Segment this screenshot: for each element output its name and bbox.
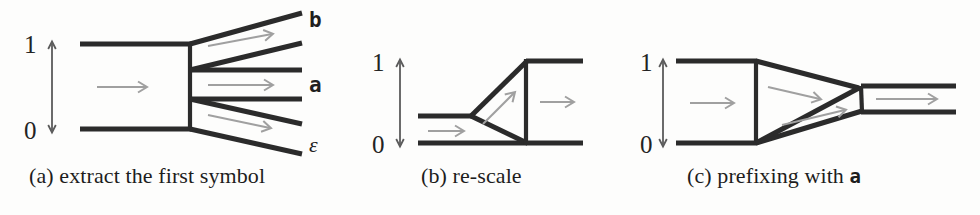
panel-a-flow-arrow-input (97, 82, 147, 93)
panel-c-label-zero: 0 (640, 131, 653, 158)
panel-b-flow-arrow-diagonal (483, 88, 519, 124)
panel-c-label-one: 1 (640, 49, 653, 76)
caption-panel-c-text: (c) prefixing with (687, 163, 850, 188)
caption-panel-c-symbol: a (850, 165, 862, 187)
panel-b-input-band (418, 116, 527, 143)
panel-c-flow-arrow-upper (768, 87, 822, 105)
caption-panel-a: (a) extract the first symbol (29, 163, 265, 189)
caption-panel-b: (b) re-scale (421, 163, 522, 189)
panel-b-flow-arrow-input (428, 126, 464, 137)
panel-a-flow-arrow-epsilon (208, 115, 272, 134)
panel-c: 1 0 (640, 49, 956, 158)
panel-c-flow-arrow-input (690, 98, 734, 109)
figure-root: 1 0 b a ε (0, 0, 980, 215)
panel-a-label-one: 1 (24, 31, 37, 58)
panel-c-axis-arrow (659, 60, 667, 147)
panel-a-label-zero: 0 (24, 117, 37, 144)
panel-a-flow-arrow-a (208, 80, 273, 91)
panel-a-branch-label-a: a (309, 73, 322, 97)
panel-a: 1 0 b a ε (24, 8, 322, 157)
panel-b-label-one: 1 (372, 49, 385, 76)
panel-b-label-zero: 0 (372, 131, 385, 158)
panel-b-expansion-wedge (471, 59, 527, 145)
panel-a-branch-label-epsilon: ε (309, 132, 318, 157)
panel-c-flow-arrow-output (876, 94, 937, 105)
panel-b: 1 0 (372, 49, 583, 158)
panel-b-axis-arrow (396, 60, 404, 147)
panel-a-axis-arrow (48, 42, 56, 133)
panel-a-branch-b (190, 13, 302, 70)
panel-a-branch-label-b: b (309, 8, 322, 32)
panel-a-branch-epsilon (190, 99, 302, 154)
panel-b-flow-arrow-output (540, 97, 574, 108)
caption-panel-c: (c) prefixing with a (687, 163, 861, 189)
panel-c-converge-wedge-upper (756, 61, 859, 143)
panel-c-flow-arrow-lower (782, 104, 847, 125)
caption-row: (a) extract the first symbol (b) re-scal… (0, 163, 980, 211)
